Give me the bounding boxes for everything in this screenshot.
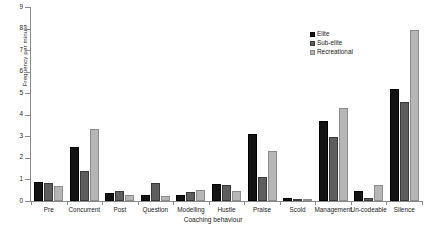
bar-group [67, 7, 103, 201]
bar[interactable] [125, 195, 134, 201]
legend-swatch-icon [310, 50, 315, 55]
y-axis-tick [25, 93, 30, 94]
bar[interactable] [329, 137, 338, 201]
legend-item-label: Elite [317, 31, 329, 37]
y-axis-tick-label: 1 [1, 176, 23, 182]
x-axis-tick [386, 201, 387, 205]
bar[interactable] [44, 183, 53, 201]
x-axis-tick [244, 201, 245, 205]
y-axis-tick [25, 158, 30, 159]
bar[interactable] [186, 192, 195, 201]
bar[interactable] [248, 134, 257, 201]
y-axis-tick-label: 9 [1, 4, 23, 10]
x-axis-tick [351, 201, 352, 205]
bar-group [209, 7, 245, 201]
y-axis-tick [25, 201, 30, 202]
x-axis-category-label: Silence [378, 206, 426, 214]
bar-group [102, 7, 138, 201]
y-axis-tick [25, 72, 30, 73]
bar[interactable] [354, 191, 363, 201]
bar[interactable] [105, 193, 114, 201]
bar[interactable] [319, 121, 328, 201]
y-axis-tick-label: 7 [1, 47, 23, 53]
legend-swatch-icon [310, 41, 315, 46]
legend-item-label: Sub-elite [317, 40, 342, 46]
legend-item[interactable]: Recreational [310, 48, 353, 56]
x-axis-tick [102, 201, 103, 205]
bar[interactable] [176, 195, 185, 201]
x-axis-line [30, 201, 422, 202]
y-axis-tick [25, 115, 30, 116]
bar[interactable] [151, 183, 160, 201]
legend-item[interactable]: Sub-elite [310, 39, 353, 47]
plot-area [31, 7, 422, 201]
bar[interactable] [410, 30, 419, 201]
bar[interactable] [339, 108, 348, 201]
y-axis-tick [25, 136, 30, 137]
y-axis-tick-label: 6 [1, 68, 23, 74]
y-axis-tick-label: 2 [1, 154, 23, 160]
bar[interactable] [196, 190, 205, 201]
x-axis-tick [138, 201, 139, 205]
y-axis-tick [25, 7, 30, 8]
y-axis-tick-label: 5 [1, 90, 23, 96]
bar[interactable] [115, 191, 124, 201]
bar[interactable] [268, 151, 277, 201]
legend-item[interactable]: Elite [310, 30, 353, 38]
bar[interactable] [232, 191, 241, 201]
bar[interactable] [374, 185, 383, 201]
bar[interactable] [222, 185, 231, 201]
bar-group [173, 7, 209, 201]
bar[interactable] [364, 198, 373, 201]
legend-swatch-icon [310, 32, 315, 37]
legend-item-label: Recreational [317, 49, 353, 55]
bar[interactable] [80, 171, 89, 201]
y-axis-tick-label: 0 [1, 198, 23, 204]
bar[interactable] [161, 196, 170, 201]
y-axis-title: Frequency per minute [21, 0, 28, 116]
y-axis-tick-label: 3 [1, 133, 23, 139]
bar[interactable] [390, 89, 399, 201]
x-axis-title: Coaching behaviour [0, 216, 426, 223]
x-axis-tick [31, 201, 32, 205]
x-axis-tick [280, 201, 281, 205]
bar[interactable] [293, 199, 302, 201]
y-axis-tick [25, 179, 30, 180]
bar[interactable] [212, 184, 221, 201]
bar[interactable] [400, 102, 409, 201]
bar[interactable] [34, 182, 43, 201]
bar[interactable] [303, 199, 312, 201]
bar[interactable] [141, 195, 150, 201]
y-axis-tick [25, 50, 30, 51]
bar-group [244, 7, 280, 201]
bar-group [31, 7, 67, 201]
bar-chart: Frequency per minute 0123456789 PreConcu… [0, 0, 426, 236]
y-axis-tick [25, 29, 30, 30]
bar[interactable] [70, 147, 79, 201]
bar[interactable] [54, 186, 63, 201]
bar-group [138, 7, 174, 201]
x-axis-tick [315, 201, 316, 205]
bar-group [386, 7, 422, 201]
bar-group [351, 7, 387, 201]
bar[interactable] [258, 177, 267, 201]
bar[interactable] [90, 129, 99, 201]
y-axis-tick-label: 8 [1, 25, 23, 31]
chart-legend: EliteSub-eliteRecreational [310, 30, 353, 57]
y-axis-tick-label: 4 [1, 111, 23, 117]
x-axis-tick [209, 201, 210, 205]
x-axis-tick [173, 201, 174, 205]
bar[interactable] [283, 198, 292, 201]
x-axis-tick [422, 201, 423, 205]
x-axis-tick [67, 201, 68, 205]
